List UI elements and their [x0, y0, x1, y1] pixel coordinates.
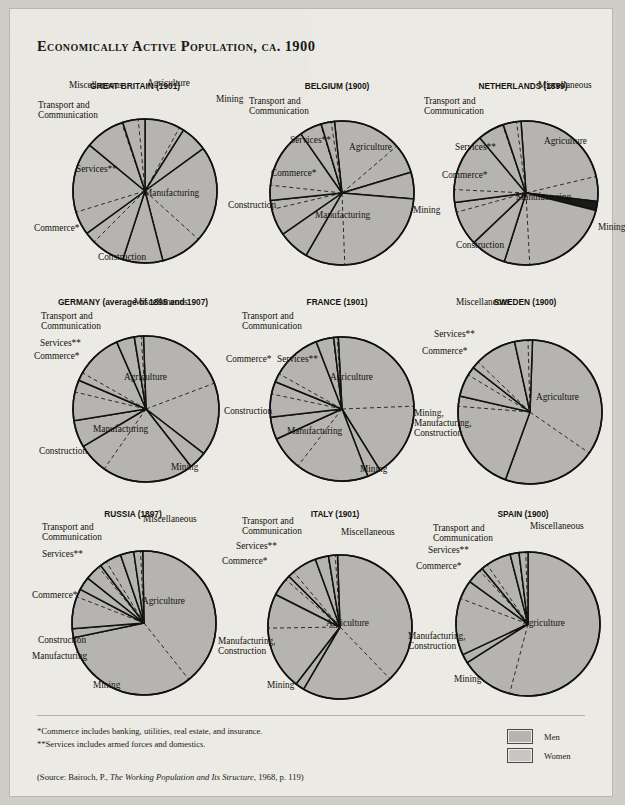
- slice-label: Agriculture: [326, 619, 369, 629]
- slice-label: Commerce*: [442, 171, 487, 181]
- slice-label: Manufacturing: [315, 211, 370, 221]
- slice-label: Manufacturing: [144, 189, 199, 199]
- page-title: Economically Active Population, ca. 1900: [37, 38, 315, 55]
- pie-graphic: [240, 509, 430, 709]
- slice-label: Mining: [93, 681, 120, 691]
- slice-label: Construction: [38, 636, 86, 646]
- slice-label: Manufacturing: [32, 652, 87, 662]
- slice-label: Commerce*: [226, 355, 271, 365]
- slice-label: Miscellaneous: [69, 81, 123, 91]
- slice-label: Mining: [171, 463, 198, 473]
- chart-title: BELGIUM (1900): [242, 81, 432, 91]
- slice-label: Agriculture: [147, 79, 190, 89]
- chart-title: SPAIN (1900): [428, 509, 618, 519]
- slice-label: Miscellaneous: [456, 298, 510, 308]
- legend-label: Women: [544, 751, 571, 761]
- slice-label: Commerce*: [32, 591, 77, 601]
- source-pre: (Source: Bairoch, P.,: [37, 772, 110, 782]
- footnote-commerce: *Commerce includes banking, utilities, r…: [37, 725, 263, 738]
- footnote-services: **Services includes armed forces and dom…: [37, 738, 205, 751]
- legend-swatch: [507, 748, 533, 763]
- chart-title: RUSSIA (1897): [38, 509, 228, 519]
- pie-chart: SPAIN (1900)AgricultureMiningManufacturi…: [428, 509, 618, 709]
- slice-label: Transport andCommunication: [242, 312, 302, 332]
- divider: [37, 715, 585, 716]
- slice-label: Commerce*: [34, 352, 79, 362]
- slice-label: Agriculture: [142, 597, 185, 607]
- pie-chart: BELGIUM (1900)AgricultureMiningManufactu…: [242, 81, 432, 281]
- slice-label: Miscellaneous: [134, 298, 188, 308]
- pie-slice: [521, 121, 598, 202]
- slice-label: Transport andCommunication: [42, 523, 102, 543]
- poster-page: Economically Active Population, ca. 1900…: [10, 9, 612, 796]
- pie-chart: GERMANY (average of 1895 and 1907)Agricu…: [38, 297, 228, 497]
- source-line: (Source: Bairoch, P., The Working Popula…: [37, 771, 304, 784]
- pie-graphic: [430, 297, 620, 497]
- slice-label: Mining: [598, 223, 625, 233]
- slice-label: Transport andCommunication: [38, 101, 98, 121]
- slice-label: Construction: [98, 253, 146, 263]
- slice-label: Manufacturing,Construction: [408, 632, 466, 652]
- slice-label: Manufacturing: [516, 193, 571, 203]
- slice-label: Services**: [455, 143, 496, 153]
- slice-label: Miscellaneous: [341, 528, 395, 538]
- slice-label: Miscellaneous: [530, 522, 584, 532]
- slice-label: Manufacturing: [287, 427, 342, 437]
- legend-swatch: [507, 729, 533, 744]
- legend-item: Men: [507, 727, 571, 746]
- pie-chart: GREAT BRITAIN (1901)AgricultureMiningMan…: [40, 81, 230, 281]
- slice-label: Mining: [454, 675, 481, 685]
- slice-label: Construction: [39, 447, 87, 457]
- slice-label: Agriculture: [522, 619, 565, 629]
- slice-label: Transport andCommunication: [41, 312, 101, 332]
- slice-label: Transport andCommunication: [424, 97, 484, 117]
- slice-label: Commerce*: [34, 224, 79, 234]
- slice-label: Commerce*: [271, 169, 316, 179]
- slice-label: Services**: [42, 550, 83, 560]
- chart-title: FRANCE (1901): [242, 297, 432, 307]
- pie-chart: RUSSIA (1897)AgricultureMiningManufactur…: [38, 509, 228, 709]
- legend-label: Men: [544, 732, 560, 742]
- slice-label: Agriculture: [536, 393, 579, 403]
- slice-label: Agriculture: [124, 373, 167, 383]
- slice-label: Construction: [228, 201, 276, 211]
- chart-title: GERMANY (average of 1895 and 1907): [38, 297, 228, 307]
- source-post: , 1968, p. 119): [254, 772, 304, 782]
- slice-label: Commerce*: [222, 557, 267, 567]
- slice-label: Services**: [236, 542, 277, 552]
- slice-label: Mining: [267, 681, 294, 691]
- slice-label: Construction: [456, 241, 504, 251]
- slice-label: Transport andCommunication: [433, 524, 493, 544]
- slice-label: Mining: [360, 465, 387, 475]
- slice-label: Agriculture: [349, 143, 392, 153]
- slice-label: Services**: [40, 339, 81, 349]
- pie-chart: SWEDEN (1900)AgricultureMining,Manufactu…: [430, 297, 620, 497]
- pie-chart: FRANCE (1901)AgricultureMiningManufactur…: [242, 297, 432, 497]
- legend: MenWomen: [507, 727, 571, 765]
- slice-label: Agriculture: [544, 137, 587, 147]
- source-title: The Working Population and Its Structure: [110, 772, 254, 782]
- slice-label: Commerce*: [422, 347, 467, 357]
- slice-label: Manufacturing,Construction: [218, 637, 276, 657]
- slice-label: Miscellaneous: [538, 81, 592, 91]
- slice-label: Transport andCommunication: [242, 517, 302, 537]
- slice-label: Services**: [428, 546, 469, 556]
- slice-label: Services**: [277, 355, 318, 365]
- legend-item: Women: [507, 746, 571, 765]
- slice-label: Mining,Manufacturing,Construction: [414, 409, 472, 438]
- slice-label: Agriculture: [330, 373, 373, 383]
- slice-label: Construction: [224, 407, 272, 417]
- slice-label: Commerce*: [416, 562, 461, 572]
- slice-label: Miscellaneous: [143, 515, 197, 525]
- slice-label: Services**: [290, 136, 331, 146]
- slice-label: Manufacturing: [93, 425, 148, 435]
- pie-chart: NETHERLANDS (1899)AgricultureMiningManuf…: [428, 81, 618, 281]
- slice-label: Transport andCommunication: [249, 97, 309, 117]
- slice-label: Services**: [434, 330, 475, 340]
- slice-label: Mining: [216, 95, 243, 105]
- slice-label: Services**: [76, 165, 117, 175]
- pie-chart: ITALY (1901)AgricultureMiningManufacturi…: [240, 509, 430, 709]
